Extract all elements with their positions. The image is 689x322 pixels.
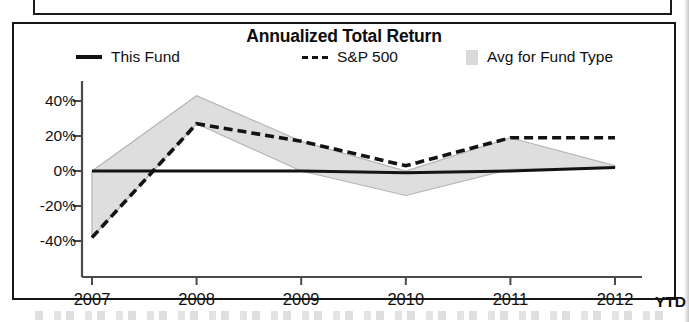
annualized-total-return-panel: Annualized Total Return This Fund S&P 50… xyxy=(12,22,676,300)
page-edge-shadow xyxy=(684,0,689,322)
x-axis-tick-label: 2012 xyxy=(580,290,650,309)
plot-area xyxy=(14,24,678,302)
y-axis-tick-label: 20% xyxy=(14,127,76,145)
x-axis-tick-label: 2010 xyxy=(371,290,441,309)
x-axis-tick-label: 2008 xyxy=(162,290,232,309)
x-axis-tick-label: 2009 xyxy=(266,290,336,309)
y-axis-tick-label: -40% xyxy=(14,232,76,250)
avg-fund-type-band xyxy=(92,96,615,238)
y-axis-tick-label: 40% xyxy=(14,92,76,110)
preceding-panel-edge xyxy=(33,0,672,15)
x-axis-tick-label: 2007 xyxy=(57,290,127,309)
x-axis-ytd-label: YTD xyxy=(655,293,686,311)
x-axis-tick-label: 2011 xyxy=(475,290,545,309)
chart-plot-svg xyxy=(14,24,678,302)
scan-artifact-strip xyxy=(30,311,670,320)
y-axis-tick-label: -20% xyxy=(14,197,76,215)
y-axis-tick-label: 0% xyxy=(14,162,76,180)
